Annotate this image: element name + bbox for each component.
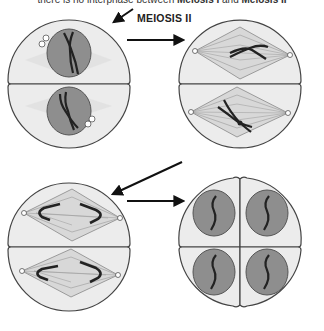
anaphase-ii-cell	[8, 183, 130, 311]
prophase-ii-cell	[8, 20, 130, 148]
metaphase-ii-cell	[179, 20, 301, 148]
telophase-ii-cell	[179, 177, 301, 307]
arrow-metaphase-to-anaphase	[113, 162, 182, 194]
arrow-label-to-prophase	[114, 9, 133, 22]
meiosis-ii-diagram	[0, 0, 324, 331]
